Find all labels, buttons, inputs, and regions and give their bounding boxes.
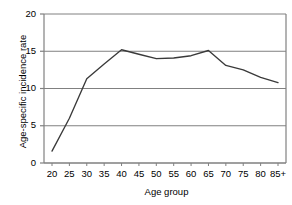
x-tick-label: 65: [199, 168, 217, 179]
y-tick-label: 0: [14, 157, 36, 168]
x-tick-label: 45: [130, 168, 148, 179]
x-tick-label: 35: [95, 168, 113, 179]
x-tick-label: 70: [217, 168, 235, 179]
x-tick-label: 55: [165, 168, 183, 179]
x-tick-label: 60: [182, 168, 200, 179]
x-tick-label: 75: [234, 168, 252, 179]
x-tick-label: 25: [60, 168, 78, 179]
x-tick-label: 20: [43, 168, 61, 179]
y-tick-label: 15: [14, 45, 36, 56]
x-tick-label: 85+: [267, 168, 289, 179]
y-tick-label: 10: [14, 82, 36, 93]
x-tick-label: 50: [147, 168, 165, 179]
x-tick-label: 40: [113, 168, 131, 179]
y-tick-label: 5: [14, 119, 36, 130]
x-tick-label: 30: [78, 168, 96, 179]
chart-figure: Age-specific incidence rate Age group 05…: [0, 0, 292, 205]
x-axis-label: Age group: [45, 186, 288, 197]
y-tick-label: 20: [14, 8, 36, 19]
